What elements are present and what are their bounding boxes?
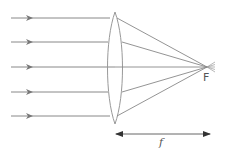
refracted-ray-4	[122, 67, 207, 92]
focal-point-label: F	[203, 72, 209, 83]
refracted-ray-2	[122, 42, 207, 67]
lens-diagram	[0, 0, 236, 150]
convex-lens	[108, 12, 123, 124]
refracted-ray-1	[117, 18, 207, 67]
refracted-rays	[115, 18, 207, 116]
focal-length-label: f	[159, 137, 163, 148]
refracted-ray-5	[117, 67, 207, 116]
incoming-rays	[11, 18, 115, 116]
